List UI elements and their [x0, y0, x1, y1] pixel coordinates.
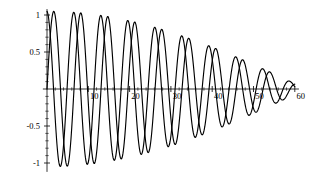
y-axis-tick-label: 0.5 — [29, 47, 40, 57]
y-axis-tick-labels: 10.5-0.5-1 — [27, 10, 40, 168]
x-axis-tick-label: 60 — [297, 91, 306, 101]
x-axis-tick-label: 20 — [131, 91, 140, 101]
plot-canvas: 102030405060 10.5-0.5-1 — [0, 0, 325, 190]
y-axis-tick-label: 1 — [36, 10, 40, 20]
x-axis-tick-label: 40 — [214, 91, 223, 101]
y-axis-tick-label: -1 — [33, 158, 40, 168]
x-axis-tick-label: 30 — [173, 91, 182, 101]
y-axis-tick-label: -0.5 — [27, 121, 40, 131]
x-axis-tick-label: 50 — [255, 91, 264, 101]
x-axis-tick-label: 10 — [90, 91, 99, 101]
plot-figure: 102030405060 10.5-0.5-1 — [0, 0, 325, 190]
